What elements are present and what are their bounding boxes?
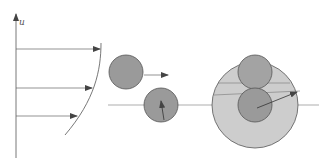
center-particle: [238, 88, 272, 122]
top-particle: [238, 55, 272, 89]
u-axis-label: u: [19, 17, 25, 27]
diagram-svg: [0, 0, 319, 166]
collision-sphere-panel: [212, 55, 300, 148]
figure-canvas: u: [0, 0, 319, 166]
upper-particle: [109, 55, 143, 89]
velocity-profile-panel: [16, 14, 101, 158]
lower-particle: [144, 88, 178, 122]
velocity-profile-curve: [65, 43, 101, 135]
